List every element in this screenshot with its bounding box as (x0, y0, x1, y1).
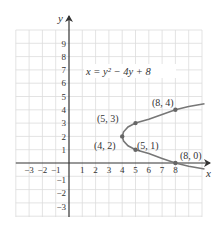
svg-text:7: 7 (62, 65, 67, 75)
equation-label: x = y² − 4y + 8 (85, 66, 151, 77)
svg-text:5: 5 (133, 165, 138, 175)
svg-text:8: 8 (62, 52, 67, 62)
x-axis-label: x (205, 167, 211, 179)
svg-text:−1: −1 (51, 165, 61, 175)
svg-text:−2: −2 (56, 188, 66, 198)
svg-text:5: 5 (62, 92, 67, 102)
svg-text:3: 3 (62, 118, 67, 128)
svg-text:(4, 2): (4, 2) (94, 140, 116, 152)
svg-text:1: 1 (62, 145, 67, 155)
svg-text:6: 6 (147, 165, 152, 175)
svg-text:−3: −3 (24, 165, 34, 175)
svg-text:1: 1 (80, 165, 85, 175)
svg-text:2: 2 (62, 132, 67, 142)
svg-text:4: 4 (62, 105, 67, 115)
y-axis-label: y (57, 12, 63, 24)
svg-text:(5, 3): (5, 3) (97, 113, 119, 125)
svg-text:7: 7 (160, 165, 165, 175)
y-tick-labels: 9 8 7 6 5 4 3 2 1 −1 −2 −3 (56, 39, 66, 212)
svg-text:−1: −1 (56, 175, 66, 185)
point-8-0 (173, 161, 177, 165)
svg-text:9: 9 (62, 39, 67, 49)
svg-text:(8, 4): (8, 4) (152, 97, 174, 109)
svg-text:−2: −2 (38, 165, 48, 175)
svg-text:2: 2 (93, 165, 98, 175)
svg-text:4: 4 (120, 165, 125, 175)
svg-text:(8, 0): (8, 0) (180, 150, 202, 162)
svg-text:(5, 1): (5, 1) (137, 140, 159, 152)
svg-text:8: 8 (173, 165, 178, 175)
point-4-2 (120, 134, 124, 138)
svg-text:6: 6 (62, 78, 67, 88)
x-tick-labels: −3 −2 −1 1 2 3 4 5 6 7 8 (24, 165, 178, 175)
svg-text:−3: −3 (56, 202, 66, 212)
point-5-3 (133, 121, 137, 125)
point-8-4 (173, 108, 177, 112)
chart: x y −3 −2 −1 1 2 3 4 5 6 7 8 9 8 7 6 5 4… (0, 0, 222, 227)
svg-text:3: 3 (107, 165, 112, 175)
